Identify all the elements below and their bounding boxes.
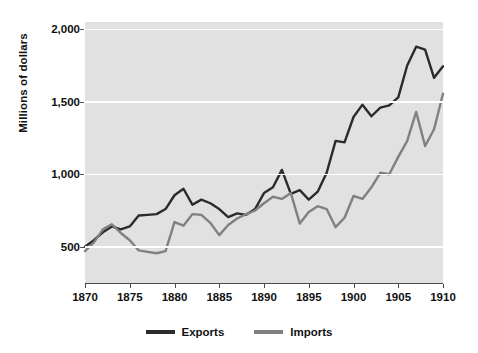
legend-label: Exports — [182, 326, 225, 338]
x-tick-label: 1885 — [194, 291, 244, 303]
x-tick-mark — [398, 284, 399, 288]
x-tick-mark — [175, 284, 176, 288]
x-tick-label: 1875 — [105, 291, 155, 303]
x-tick-label: 1905 — [373, 291, 423, 303]
y-tick-mark — [80, 29, 84, 30]
gridline-y — [85, 29, 443, 31]
y-axis-ticks: 5001,0001,5002,000 — [28, 0, 80, 300]
x-tick-mark — [219, 284, 220, 288]
x-tick-label: 1870 — [60, 291, 110, 303]
y-tick-mark — [80, 247, 84, 248]
x-tick-mark — [264, 284, 265, 288]
y-tick-mark — [80, 102, 84, 103]
x-tick-mark — [85, 284, 86, 288]
x-tick-mark — [443, 284, 444, 288]
x-tick-label: 1895 — [284, 291, 334, 303]
x-tick-label: 1910 — [418, 291, 468, 303]
series-line-exports — [85, 47, 443, 247]
x-tick-mark — [354, 284, 355, 288]
x-tick-label: 1890 — [239, 291, 289, 303]
legend-item-exports[interactable]: Exports — [146, 326, 225, 338]
series-layer — [85, 22, 443, 283]
x-tick-label: 1880 — [150, 291, 200, 303]
y-tick-label: 1,000 — [34, 168, 80, 180]
legend-swatch-icon — [146, 330, 175, 334]
y-tick-label: 500 — [34, 241, 80, 253]
chart-legend: ExportsImports — [0, 326, 478, 338]
x-tick-label: 1900 — [329, 291, 379, 303]
plot-area — [85, 22, 443, 283]
y-tick-label: 2,000 — [34, 23, 80, 35]
gridline-y — [85, 174, 443, 176]
legend-item-imports[interactable]: Imports — [254, 326, 332, 338]
gridline-y — [85, 101, 443, 103]
legend-label: Imports — [290, 326, 332, 338]
x-tick-mark — [130, 284, 131, 288]
y-tick-mark — [80, 174, 84, 175]
legend-swatch-icon — [254, 330, 283, 334]
line-chart: Millions of dollars 5001,0001,5002,000 1… — [0, 0, 478, 353]
x-tick-mark — [309, 284, 310, 288]
y-tick-label: 1,500 — [34, 96, 80, 108]
gridline-y — [85, 246, 443, 248]
